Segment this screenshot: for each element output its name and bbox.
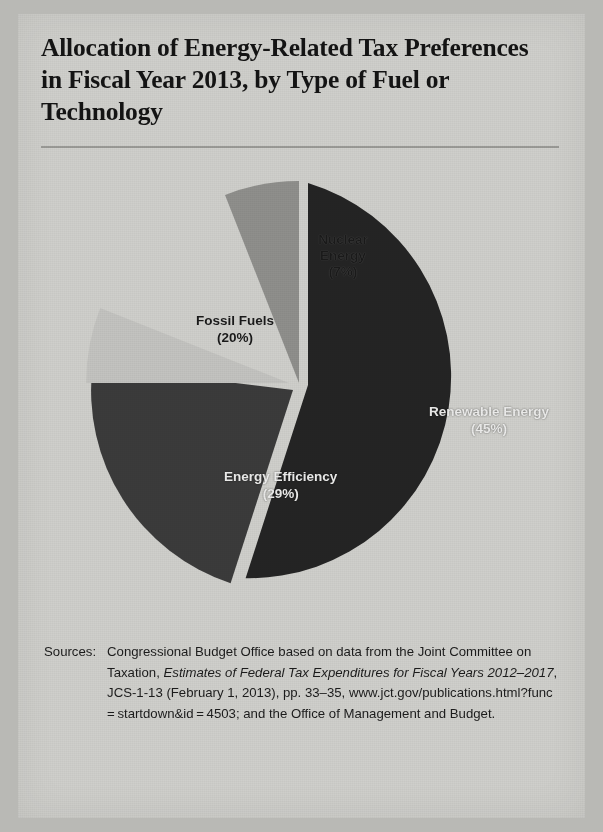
slice-label-fossil-fuels-name: Fossil Fuels bbox=[196, 313, 274, 330]
sources-note: Sources: Congressional Budget Office bas… bbox=[44, 642, 564, 724]
sources-label: Sources: bbox=[44, 642, 107, 724]
slice-label-energy-efficiency-value: (29%) bbox=[224, 486, 337, 503]
slice-label-renewable-energy: Renewable Energy (45%) bbox=[429, 404, 549, 437]
slice-label-nuclear-energy-name: Nuclear Energy bbox=[306, 232, 380, 264]
slice-label-renewable-energy-value: (45%) bbox=[429, 421, 549, 438]
sources-text-italic-title: Estimates of Federal Tax Expenditures fo… bbox=[164, 665, 554, 680]
pie-chart: Nuclear Energy (7%) Fossil Fuels (20%) R… bbox=[18, 162, 585, 614]
slice-label-energy-efficiency-name: Energy Efficiency bbox=[224, 469, 337, 486]
slice-shapes bbox=[84, 168, 514, 598]
pie-slices-group: Nuclear Energy (7%) Fossil Fuels (20%) R… bbox=[84, 168, 514, 608]
title-divider bbox=[41, 146, 559, 148]
sources-text: Congressional Budget Office based on dat… bbox=[107, 642, 564, 724]
page-title: Allocation of Energy-Related Tax Prefere… bbox=[41, 32, 541, 128]
slice-label-nuclear-energy-value: (7%) bbox=[306, 264, 380, 281]
slice-label-nuclear-energy: Nuclear Energy (7%) bbox=[306, 232, 380, 281]
slice-label-fossil-fuels-value: (20%) bbox=[196, 330, 274, 347]
slice-label-renewable-energy-name: Renewable Energy bbox=[429, 404, 549, 421]
slice-nuclear-energy bbox=[225, 181, 299, 383]
slice-label-fossil-fuels: Fossil Fuels (20%) bbox=[196, 313, 274, 346]
figure-page: Allocation of Energy-Related Tax Prefere… bbox=[18, 14, 585, 818]
slice-label-energy-efficiency: Energy Efficiency (29%) bbox=[224, 469, 337, 502]
